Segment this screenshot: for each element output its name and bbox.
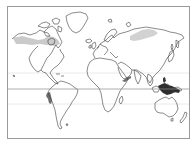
- world-map: [0, 0, 195, 144]
- map-background: [0, 0, 195, 144]
